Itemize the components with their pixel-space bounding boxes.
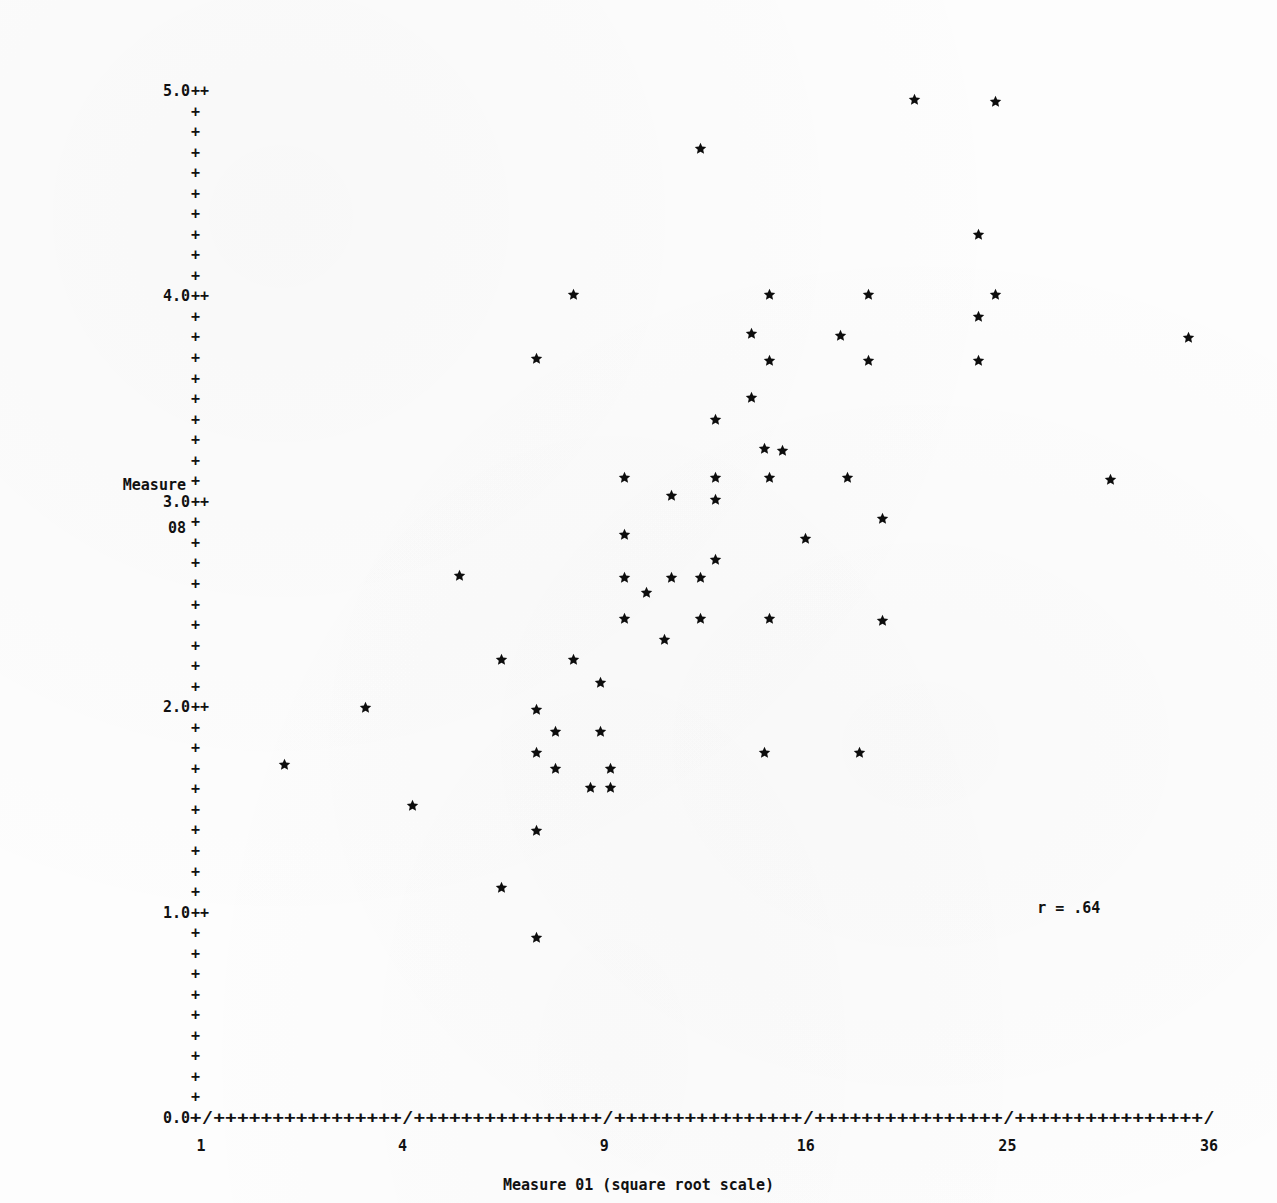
y-axis-minor-tick: + [191,883,200,901]
y-axis-major-tick: ++ [191,287,209,305]
data-point-marker [799,532,812,545]
y-axis-minor-tick: + [191,760,200,778]
y-axis-major-tick: ++ [191,698,209,716]
data-point-marker [763,288,776,301]
data-point-marker [862,354,875,367]
y-axis-minor-tick: + [191,657,200,675]
x-axis-tick-label: 9 [574,1137,634,1155]
data-point-marker [989,95,1002,108]
y-axis-minor-tick: + [191,452,200,470]
y-axis-minor-tick: + [191,534,200,552]
scatter-plot-figure: 5.0+++++++++++4.0+++++++++++3.0+++++++++… [0,0,1277,1203]
y-axis-minor-tick: + [191,103,200,121]
y-axis-minor-tick: + [191,246,200,264]
y-axis-minor-tick: + [191,801,200,819]
data-point-marker [1182,331,1195,344]
data-point-marker [709,553,722,566]
data-point-marker [618,528,631,541]
data-point-marker [406,799,419,812]
y-axis-minor-tick: + [191,328,200,346]
data-point-marker [640,586,653,599]
y-axis-tick-label: 4.0 [134,287,190,305]
data-point-marker [745,327,758,340]
x-axis-tick-label: 4 [373,1137,433,1155]
data-point-marker [658,633,671,646]
data-point-marker [694,142,707,155]
data-point-marker [618,571,631,584]
y-axis-minor-tick: + [191,267,200,285]
y-axis-minor-tick: + [191,308,200,326]
data-point-marker [876,614,889,627]
data-point-marker [530,824,543,837]
y-axis-minor-tick: + [191,513,200,531]
y-axis-minor-tick: + [191,349,200,367]
data-point-marker [694,612,707,625]
y-axis-minor-tick: + [191,821,200,839]
y-axis-minor-tick: + [191,719,200,737]
y-axis-minor-tick: + [191,986,200,1004]
data-point-marker [584,781,597,794]
x-axis-tick-label: 16 [776,1137,836,1155]
y-axis-minor-tick: + [191,1027,200,1045]
data-point-marker [709,413,722,426]
data-point-marker [665,489,678,502]
data-point-marker [876,512,889,525]
data-point-marker [972,310,985,323]
data-point-marker [567,653,580,666]
data-point-marker [709,493,722,506]
y-axis-title-line1: Measure [61,476,186,494]
data-point-marker [758,746,771,759]
y-axis-tick-label: 1.0 [134,904,190,922]
y-axis-minor-tick: + [191,205,200,223]
y-axis-minor-tick: + [191,411,200,429]
y-axis-minor-tick: + [191,144,200,162]
data-point-marker [763,354,776,367]
y-axis-minor-tick: + [191,390,200,408]
data-point-marker [618,471,631,484]
y-axis-minor-tick: + [191,370,200,388]
y-axis-minor-tick: + [191,637,200,655]
x-axis-tick-label: 1 [171,1137,231,1155]
y-axis-minor-tick: + [191,596,200,614]
y-axis-tick-label: 2.0 [134,698,190,716]
data-point-marker [604,762,617,775]
data-point-marker [549,762,562,775]
data-point-marker [853,746,866,759]
y-axis-minor-tick: + [191,616,200,634]
data-point-marker [530,703,543,716]
y-axis-minor-tick: + [191,863,200,881]
y-axis-minor-tick: + [191,226,200,244]
data-point-marker [972,354,985,367]
data-point-marker [549,725,562,738]
data-point-marker [530,931,543,944]
data-point-marker [495,881,508,894]
y-axis-minor-tick: + [191,945,200,963]
data-point-marker [665,571,678,584]
y-axis-tick-label: 3.0 [134,493,190,511]
data-point-marker [709,471,722,484]
data-point-marker [604,781,617,794]
y-axis-major-tick: ++ [191,493,209,511]
x-axis-tick-label: 36 [1179,1137,1239,1155]
data-point-marker [972,228,985,241]
data-point-marker [594,725,607,738]
y-axis-minor-tick: + [191,185,200,203]
y-axis-minor-tick: + [191,554,200,572]
correlation-annotation: r = .64 [1037,899,1100,917]
data-point-marker [745,391,758,404]
data-point-marker [834,329,847,342]
data-point-marker [862,288,875,301]
data-point-marker [278,758,291,771]
y-axis-minor-tick: + [191,1068,200,1086]
data-point-marker [495,653,508,666]
y-axis-minor-tick: + [191,780,200,798]
data-point-marker [453,569,466,582]
data-point-marker [758,442,771,455]
y-axis-minor-tick: + [191,164,200,182]
data-point-marker [567,288,580,301]
x-axis-caption: Measure 01 (square root scale) [0,1176,1277,1194]
data-point-marker [908,93,921,106]
y-axis-minor-tick: + [191,431,200,449]
y-axis-major-tick: ++ [191,904,209,922]
y-axis-minor-tick: + [191,965,200,983]
